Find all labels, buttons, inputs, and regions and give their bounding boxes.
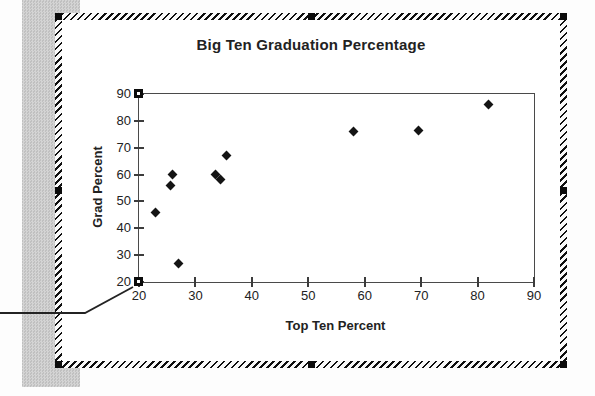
data-point[interactable] [174,258,184,268]
handle-dot [137,280,140,283]
axis-selection-handle-top[interactable] [134,89,143,98]
x-axis-tick [420,277,422,287]
x-tick-label: 90 [516,289,552,303]
x-axis-tick [364,277,366,287]
selection-handle-s[interactable] [308,361,315,368]
data-point[interactable] [168,170,178,180]
x-axis-tick [251,277,253,287]
chart-area[interactable]: Big Ten Graduation Percentage 2030405060… [62,20,560,361]
plot-area[interactable]: 20304050607080902030405060708090 [138,93,535,283]
y-axis-tick [134,254,144,256]
selection-handle-nw[interactable] [55,13,62,20]
y-axis-tick [134,227,144,229]
x-tick-label: 50 [290,289,326,303]
data-point[interactable] [151,207,161,217]
x-tick-label: 80 [460,289,496,303]
axis-selection-handle-bottom[interactable] [134,277,143,286]
data-point[interactable] [484,100,494,110]
y-tick-label: 20 [99,275,131,289]
selection-handle-se[interactable] [560,361,567,368]
y-axis-tick [134,120,144,122]
y-axis-tick [134,174,144,176]
selection-handle-sw[interactable] [55,361,62,368]
selection-handle-ne[interactable] [560,13,567,20]
x-tick-label: 40 [234,289,270,303]
y-axis-tick [134,200,144,202]
y-axis-tick [134,147,144,149]
selection-handle-e[interactable] [560,187,567,194]
chart-title[interactable]: Big Ten Graduation Percentage [62,36,560,53]
x-axis-tick [194,277,196,287]
y-axis-title[interactable]: Grad Percent [90,117,106,257]
selection-handle-w[interactable] [55,187,62,194]
data-point[interactable] [216,175,226,185]
screen: Big Ten Graduation Percentage 2030405060… [0,0,595,396]
x-tick-label: 20 [121,289,157,303]
x-axis-tick [307,277,309,287]
x-axis-tick [477,277,479,287]
x-tick-label: 60 [347,289,383,303]
data-point[interactable] [165,180,175,190]
data-point[interactable] [413,125,423,135]
y-tick-label: 90 [99,87,131,101]
x-tick-label: 30 [177,289,213,303]
x-axis-tick [533,277,535,287]
handle-dot [137,92,140,95]
data-point[interactable] [222,151,232,161]
chart-object-selection-marquee[interactable]: Big Ten Graduation Percentage 2030405060… [55,13,567,368]
x-axis-title[interactable]: Top Ten Percent [138,318,533,333]
data-point[interactable] [348,127,358,137]
selection-handle-n[interactable] [308,13,315,20]
x-tick-label: 70 [403,289,439,303]
